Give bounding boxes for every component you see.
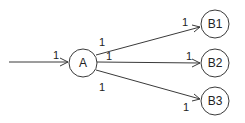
diagram-canvas: 1 1 1 1 1 1 1 A B1 B2 B3 <box>0 0 245 123</box>
edge-input-weight-label: 1 <box>53 49 59 61</box>
node-a-label: A <box>79 56 87 70</box>
node-b3-label: B3 <box>208 94 223 108</box>
node-b2: B2 <box>201 49 229 77</box>
edge-a-b3-target-label: 1 <box>183 101 189 113</box>
node-a: A <box>69 49 97 77</box>
node-b3: B3 <box>201 87 229 115</box>
graph-svg: 1 1 1 1 1 1 1 A B1 B2 B3 <box>0 0 245 123</box>
edge-a-b1-source-label: 1 <box>99 36 105 48</box>
edge-a-b2-target-label: 1 <box>186 50 192 62</box>
edge-input-to-a: 1 <box>9 49 68 66</box>
edge-a-to-b2: 1 1 <box>97 50 200 67</box>
node-b2-label: B2 <box>208 56 223 70</box>
node-b1: B1 <box>201 10 229 38</box>
node-b1-label: B1 <box>208 17 223 31</box>
edge-a-b1-target-label: 1 <box>182 16 188 28</box>
edge-a-b3-source-label: 1 <box>99 81 105 93</box>
edge-a-to-b3: 1 1 <box>96 70 200 113</box>
edge-a-b2-source-label: 1 <box>106 50 112 62</box>
